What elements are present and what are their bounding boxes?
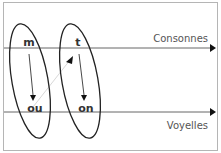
voyelles-label: Voyelles — [167, 120, 208, 131]
arrow-head-icon — [66, 56, 73, 64]
arrow-head-icon — [210, 44, 216, 52]
arrow-t-to-on — [79, 54, 84, 95]
arrow-m-to-ou — [29, 54, 33, 95]
letter-m: m — [23, 36, 34, 49]
arrow-head-icon — [210, 108, 216, 116]
letter-ou: ou — [27, 102, 42, 115]
letter-t: t — [75, 36, 80, 49]
arrow-head-icon — [81, 95, 87, 101]
consonnes-axis — [4, 44, 216, 52]
letter-on: on — [78, 102, 93, 115]
arrow-head-icon — [30, 95, 36, 101]
diagram-canvas: Consonnes Voyelles m ou t on — [0, 0, 221, 153]
connector-line — [33, 60, 70, 107]
consonnes-label: Consonnes — [153, 33, 208, 44]
